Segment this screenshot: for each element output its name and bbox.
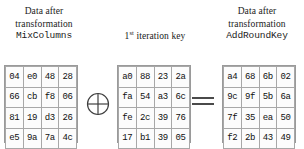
matrix-row: 66cbf806 (6, 87, 77, 108)
caption-right-line1: Data after (210, 5, 304, 18)
matrix-cell-r3-c3: 05 (172, 128, 190, 149)
matrix-cell-r3-c2: 43 (259, 128, 277, 149)
matrix-cell-r1-c2: f8 (41, 87, 59, 108)
matrix-cell-r0-c0: a0 (119, 67, 137, 88)
matrix-cell-r1-c0: 66 (6, 87, 24, 108)
matrix-cell-r0-c3: 02 (277, 67, 295, 88)
matrix-cell-r3-c3: 49 (277, 128, 295, 149)
caption-left: Data after transformation MixColumns (0, 5, 90, 43)
matrix-cell-r3-c0: 17 (119, 128, 137, 149)
matrix-cell-r0-c1: 68 (241, 67, 259, 88)
xor-icon (86, 92, 110, 116)
matrix-cell-r0-c2: 6b (259, 67, 277, 88)
matrix-cell-r3-c2: 39 (154, 128, 172, 149)
matrix-cell-r0-c1: 88 (136, 67, 154, 88)
equals-icon (192, 96, 214, 108)
matrix-row: 8119d326 (6, 108, 77, 129)
matrix-body: a4686b029c9f5b6a7f35ea50f22b4349 (224, 67, 295, 149)
matrix-cell-r1-c3: 6c (172, 87, 190, 108)
matrix-cell-r2-c2: 39 (154, 108, 172, 129)
caption-middle-rest: iteration key (134, 31, 186, 41)
matrix-cell-r0-c2: 48 (41, 67, 59, 88)
caption-middle-line: 1st iteration key (104, 30, 206, 43)
matrix-cell-r1-c0: fa (119, 87, 137, 108)
matrix-cell-r2-c0: 81 (6, 108, 24, 129)
matrix-row: f22b4349 (224, 128, 295, 149)
matrix-cell-r3-c0: e5 (6, 128, 24, 149)
matrix-grid: 04e0482866cbf8068119d326e59a7a4c (5, 66, 77, 149)
matrix-row: fe2c3976 (119, 108, 190, 129)
matrix-row: 7f35ea50 (224, 108, 295, 129)
figure-canvas: Data after transformation MixColumns 1st… (0, 0, 304, 149)
matrix-cell-r2-c3: 26 (59, 108, 77, 129)
matrix-cell-r1-c3: 06 (59, 87, 77, 108)
matrix-round-key: a088232afa54a36cfe2c397617b13905 (117, 65, 191, 143)
caption-left-transform-name: MixColumns (0, 30, 90, 43)
matrix-cell-r1-c1: cb (23, 87, 41, 108)
matrix-cell-r0-c0: a4 (224, 67, 242, 88)
matrix-cell-r2-c2: ea (259, 108, 277, 129)
matrix-row: e59a7a4c (6, 128, 77, 149)
matrix-cell-r0-c0: 04 (6, 67, 24, 88)
matrix-cell-r0-c2: 23 (154, 67, 172, 88)
matrix-cell-r2-c1: 35 (241, 108, 259, 129)
matrix-cell-r3-c1: b1 (136, 128, 154, 149)
matrix-cell-r3-c2: 7a (41, 128, 59, 149)
matrix-cell-r2-c2: d3 (41, 108, 59, 129)
matrix-grid: a088232afa54a36cfe2c397617b13905 (118, 66, 190, 149)
matrix-row: a4686b02 (224, 67, 295, 88)
equals-bar-bottom (192, 103, 214, 105)
caption-right: Data after transformation AddRoundKey (210, 5, 304, 43)
matrix-cell-r0-c3: 2a (172, 67, 190, 88)
matrix-cell-r1-c2: a3 (154, 87, 172, 108)
matrix-cell-r2-c3: 50 (277, 108, 295, 129)
matrix-row: a088232a (119, 67, 190, 88)
matrix-row: fa54a36c (119, 87, 190, 108)
matrix-cell-r1-c0: 9c (224, 87, 242, 108)
matrix-cell-r2-c1: 19 (23, 108, 41, 129)
matrix-cell-r2-c0: fe (119, 108, 137, 129)
matrix-row: 17b13905 (119, 128, 190, 149)
matrix-cell-r3-c1: 9a (23, 128, 41, 149)
matrix-cell-r3-c0: f2 (224, 128, 242, 149)
matrix-cell-r2-c3: 76 (172, 108, 190, 129)
matrix-cell-r1-c3: 6a (277, 87, 295, 108)
equals-bar-top (192, 97, 214, 99)
matrix-cell-r0-c1: e0 (23, 67, 41, 88)
matrix-body: a088232afa54a36cfe2c397617b13905 (119, 67, 190, 149)
matrix-addroundkey-state: a4686b029c9f5b6a7f35ea50f22b4349 (222, 65, 296, 143)
matrix-cell-r1-c1: 9f (241, 87, 259, 108)
matrix-mixcolumns-state: 04e0482866cbf8068119d326e59a7a4c (4, 65, 78, 143)
caption-left-line1: Data after (0, 5, 90, 18)
matrix-row: 04e04828 (6, 67, 77, 88)
matrix-cell-r2-c0: 7f (224, 108, 242, 129)
matrix-cell-r0-c3: 28 (59, 67, 77, 88)
caption-middle: 1st iteration key (104, 30, 206, 43)
matrix-cell-r3-c1: 2b (241, 128, 259, 149)
caption-right-line2: transformation (210, 18, 304, 31)
matrix-cell-r3-c3: 4c (59, 128, 77, 149)
caption-left-line2: transformation (0, 18, 90, 31)
matrix-body: 04e0482866cbf8068119d326e59a7a4c (6, 67, 77, 149)
matrix-cell-r2-c1: 2c (136, 108, 154, 129)
caption-right-transform-name: AddRoundKey (210, 30, 304, 43)
matrix-cell-r1-c1: 54 (136, 87, 154, 108)
matrix-grid: a4686b029c9f5b6a7f35ea50f22b4349 (223, 66, 295, 149)
matrix-cell-r1-c2: 5b (259, 87, 277, 108)
matrix-row: 9c9f5b6a (224, 87, 295, 108)
